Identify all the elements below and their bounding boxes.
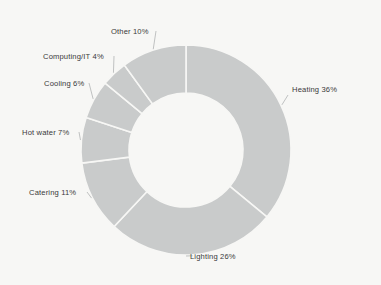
slice-label: Computing/IT 4% [43, 52, 104, 61]
leader-line [89, 83, 93, 99]
donut-slices [81, 45, 291, 255]
leader-line [79, 132, 80, 140]
donut-chart: Heating 36%Lighting 26%Catering 11%Hot w… [0, 0, 381, 285]
donut-chart-svg: Heating 36%Lighting 26%Catering 11%Hot w… [0, 0, 381, 285]
slice-label: Other 10% [111, 27, 149, 36]
slice-label: Lighting 26% [190, 252, 236, 261]
leader-line [282, 95, 288, 105]
leader-line [113, 56, 114, 73]
slice-label: Hot water 7% [22, 128, 69, 137]
slice-label: Catering 11% [29, 188, 76, 197]
slice-label: Heating 36% [292, 85, 337, 94]
slice-label: Cooling 6% [44, 79, 84, 88]
leader-line [153, 31, 156, 49]
donut-slice[interactable] [186, 45, 291, 217]
